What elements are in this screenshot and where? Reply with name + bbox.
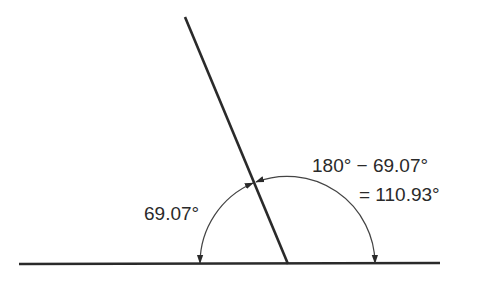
- right-angle-result: = 110.93°: [359, 184, 440, 205]
- baseline: [19, 263, 440, 264]
- right-angle-expression: 180° − 69.07°: [312, 155, 428, 176]
- transversal-line: [185, 17, 288, 264]
- left-angle-label: 69.07°: [144, 203, 199, 224]
- right-angle-arc: [256, 176, 375, 263]
- left-angle-arc: [200, 183, 253, 263]
- angle-diagram: 69.07° 180° − 69.07° = 110.93°: [0, 0, 487, 284]
